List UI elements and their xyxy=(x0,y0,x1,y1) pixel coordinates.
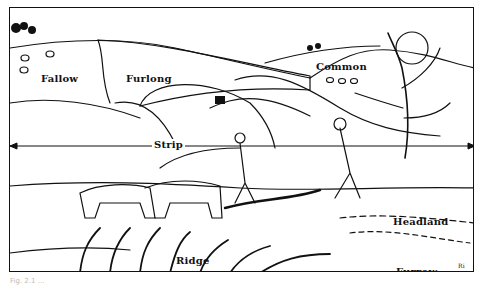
furrow-label: Furrow xyxy=(396,266,437,272)
fallow-label: Fallow xyxy=(41,73,78,84)
illustration-frame: Fallow Furlong Common Strip Headland Rid… xyxy=(9,7,474,272)
artist-signature: Ri xyxy=(458,262,465,269)
headland-label: Headland xyxy=(393,216,448,227)
figure-caption: Fig. 2.1 ... xyxy=(10,277,44,285)
furlong-label: Furlong xyxy=(126,73,172,84)
strip-label: Strip xyxy=(152,139,185,150)
common-label: Common xyxy=(316,61,367,72)
open-field-illustration xyxy=(10,8,474,272)
ridge-label: Ridge xyxy=(176,255,209,266)
